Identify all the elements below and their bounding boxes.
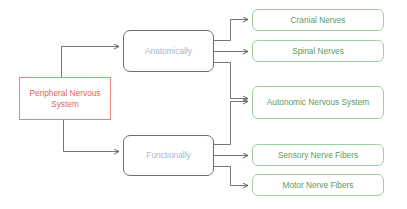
leaf-node-label: Sensory Nerve Fibers <box>278 150 358 160</box>
connector-functionally-autonomic <box>214 102 248 145</box>
branch-node-anatomically: Anatomically <box>123 30 214 72</box>
leaf-node-label: Cranial Nerves <box>291 15 346 25</box>
root-node-peripheral-nervous-system: Peripheral Nervous System <box>19 77 111 120</box>
connector-root-functionally <box>64 120 120 152</box>
branch-node-label: Anatomically <box>145 46 192 56</box>
root-node-label: Peripheral Nervous System <box>26 88 104 109</box>
connector-root-anatomically <box>62 47 120 78</box>
connector-anatomically-autonomic <box>214 63 248 99</box>
leaf-node-autonomic-nervous-system: Autonomic Nervous System <box>252 86 384 119</box>
leaf-node-label: Spinal Nerves <box>292 46 344 56</box>
leaf-node-spinal-nerves: Spinal Nerves <box>252 40 384 62</box>
leaf-node-motor-nerve-fibers: Motor Nerve Fibers <box>252 174 384 196</box>
branch-node-functionally: Functionally <box>123 135 214 176</box>
leaf-node-cranial-nerves: Cranial Nerves <box>252 9 384 31</box>
connector-anatomically-cranial <box>214 20 248 41</box>
leaf-node-label: Motor Nerve Fibers <box>282 180 353 190</box>
leaf-node-label: Autonomic Nervous System <box>267 97 369 107</box>
connector-functionally-motor <box>214 167 248 186</box>
leaf-node-sensory-nerve-fibers: Sensory Nerve Fibers <box>252 144 384 166</box>
branch-node-label: Functionally <box>146 150 190 160</box>
